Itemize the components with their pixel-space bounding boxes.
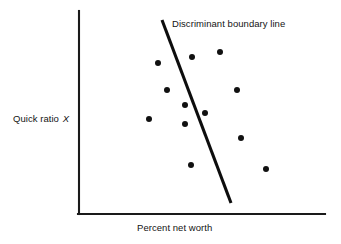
y-axis-label-text: Quick ratio [13, 113, 62, 124]
data-point [164, 87, 170, 93]
data-point [234, 87, 240, 93]
x-axis-label: Percent net worth [137, 222, 212, 233]
data-point [217, 49, 223, 55]
data-point [146, 116, 152, 122]
data-point [189, 54, 195, 60]
data-point [182, 102, 188, 108]
discriminant-scatter-figure: Quick ratio X Percent net worth Discrimi… [0, 0, 341, 244]
y-axis-variable: X [62, 113, 69, 124]
discriminant-boundary-line [162, 20, 231, 203]
data-point [155, 60, 161, 66]
discriminant-boundary-label: Discriminant boundary line [172, 18, 285, 29]
scatter-points-group [146, 49, 269, 172]
data-point [182, 121, 188, 127]
y-axis-label: Quick ratio X [13, 113, 69, 124]
data-point [188, 162, 194, 168]
data-point [202, 110, 208, 116]
data-point [238, 135, 244, 141]
data-point [263, 166, 269, 172]
